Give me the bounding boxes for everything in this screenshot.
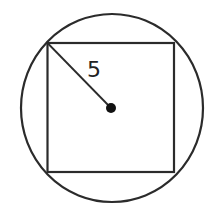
radius-label: 5 bbox=[87, 57, 101, 82]
center-point bbox=[106, 103, 116, 113]
inscribed-square-diagram: 5 bbox=[0, 0, 210, 215]
radius-segment bbox=[48, 43, 112, 108]
